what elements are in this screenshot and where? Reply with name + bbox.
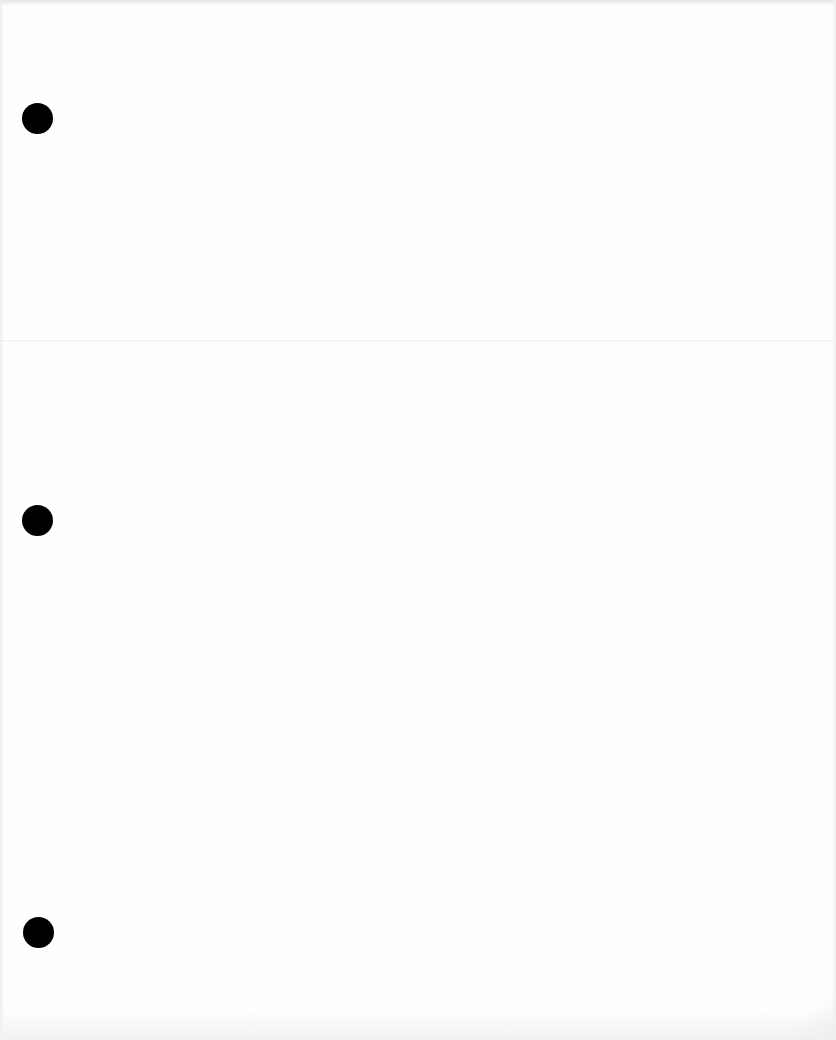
- paper-fold-line: [0, 340, 836, 342]
- top-edge-shadow: [0, 0, 836, 6]
- right-edge-shadow: [832, 0, 836, 1040]
- punch-hole-bottom: [23, 917, 54, 948]
- bottom-edge-shadow: [0, 1010, 836, 1040]
- corner-curl: [796, 970, 836, 1040]
- punch-hole-top: [22, 103, 53, 134]
- punch-hole-middle: [22, 505, 53, 536]
- left-edge-shadow: [0, 0, 4, 1040]
- blank-page: [0, 0, 836, 1040]
